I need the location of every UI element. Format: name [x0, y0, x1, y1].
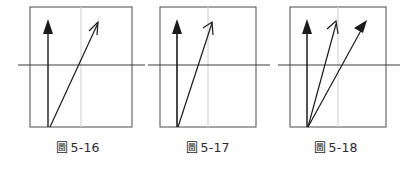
diagonal-arrow-outer-shaft — [308, 25, 364, 127]
figure-5-17: 圖5-17 — [140, 0, 276, 171]
figure-5-18: 圖5-18 — [268, 0, 404, 171]
figure-5-16: 圖5-16 — [10, 0, 146, 171]
diagonal-arrow-shaft — [178, 23, 212, 127]
figure-5-17-diagram — [140, 0, 276, 140]
caption-number: 5-16 — [71, 140, 100, 155]
figure-5-18-diagram — [268, 0, 404, 140]
figure-caption: 圖5-16 — [10, 138, 146, 155]
caption-number: 5-18 — [329, 140, 358, 155]
caption-label: 圖 — [56, 141, 68, 155]
figure-page: 圖5-16 圖5-17 圖5-1 — [0, 0, 406, 171]
diagonal-arrow-outer-head — [354, 20, 367, 33]
caption-number: 5-17 — [201, 140, 230, 155]
figure-5-16-diagram — [10, 0, 146, 140]
vertical-arrow-head — [172, 19, 182, 34]
diagonal-arrow-shaft — [50, 23, 98, 127]
diagonal-arrow-inner-shaft — [308, 24, 336, 127]
figure-caption: 圖5-17 — [140, 138, 276, 155]
figure-caption: 圖5-18 — [268, 138, 404, 155]
diagonal-arrow-inner-head — [327, 21, 338, 34]
caption-label: 圖 — [186, 141, 198, 155]
vertical-arrow-head — [302, 19, 312, 34]
vertical-arrow-head — [43, 19, 53, 34]
caption-label: 圖 — [314, 141, 326, 155]
